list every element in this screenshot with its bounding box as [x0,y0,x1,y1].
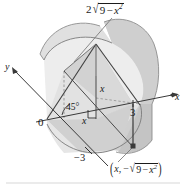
y-axis-arrow-dot [13,70,16,73]
radicand-top: 9−x2 [98,3,123,16]
label-cross-section-base: 2 √ 9−x2 [86,3,124,16]
point-open-paren: ( [110,160,113,178]
radical-top: √ 9−x2 [92,3,124,16]
radical-sign-point: √ [130,163,135,175]
point-marker [131,144,136,149]
label-x-tick-3: 3 [130,108,135,119]
x-axis-arrow-dot [170,93,173,96]
radical-sign-top: √ [92,3,98,16]
radicand-point: 9−x2 [135,163,158,175]
radical-point: √ 9−x2 [129,163,158,175]
label-point-coordinates: ( x, − √ 9−x2 ) [110,163,162,175]
solid-of-revolution-figure: 2 √ 9−x2 45° x x 0 3 −3 x y ( x, − √ [0,0,186,192]
label-origin: 0 [38,117,44,128]
label-base-x: x [82,116,86,126]
label-axis-y: y [5,62,9,72]
label-angle-45: 45° [66,103,79,113]
label-height-x: x [100,84,104,94]
label-axis-x: x [175,92,179,102]
label-y-tick-negative-3: −3 [74,153,85,164]
point-close-paren: ) [158,160,161,178]
radicand-point-exponent: 2 [154,162,157,169]
radicand-top-exponent: 2 [119,3,123,11]
radicand-top-minus: − [105,4,114,16]
